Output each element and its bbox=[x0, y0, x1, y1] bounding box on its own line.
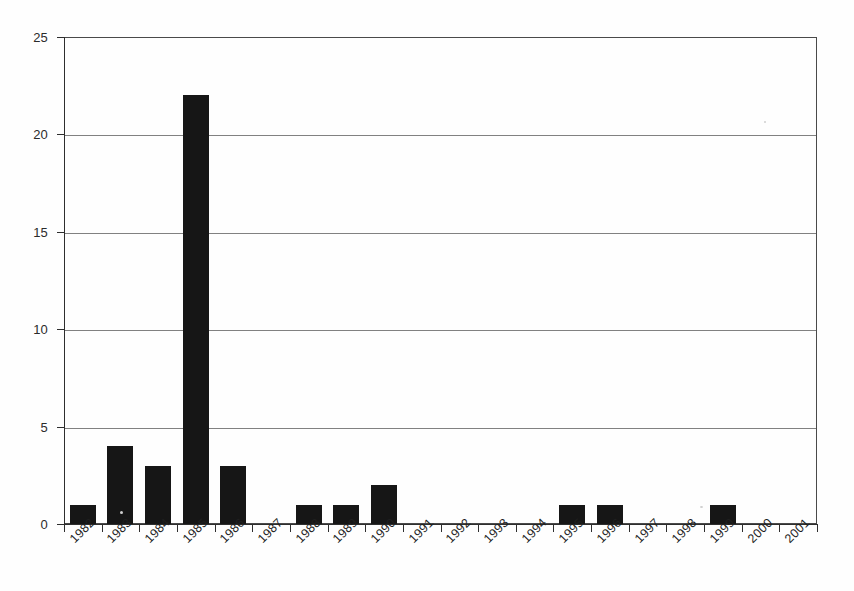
bar-slot bbox=[441, 37, 479, 524]
x-tick-mark bbox=[252, 524, 253, 532]
x-tick-mark bbox=[290, 524, 291, 532]
x-tick-mark bbox=[441, 524, 442, 532]
x-tick-mark bbox=[742, 524, 743, 532]
bar-slot bbox=[403, 37, 441, 524]
bar-slot bbox=[553, 37, 591, 524]
bar-slot bbox=[478, 37, 516, 524]
x-tick-mark bbox=[403, 524, 404, 532]
bar-slot bbox=[516, 37, 554, 524]
x-tick-mark bbox=[629, 524, 630, 532]
scan-artifact-speck bbox=[700, 506, 703, 508]
bar bbox=[220, 466, 246, 524]
bar-slot bbox=[779, 37, 817, 524]
x-tick-mark bbox=[591, 524, 592, 532]
bar-slot bbox=[215, 37, 253, 524]
x-tick-mark bbox=[365, 524, 366, 532]
bars-group bbox=[64, 37, 817, 524]
x-tick-mark bbox=[779, 524, 780, 532]
x-tick-mark bbox=[139, 524, 140, 532]
bar-slot bbox=[102, 37, 140, 524]
bar-slot bbox=[177, 37, 215, 524]
bar-slot bbox=[591, 37, 629, 524]
bar bbox=[183, 95, 209, 524]
bar-slot bbox=[365, 37, 403, 524]
x-tick-mark bbox=[666, 524, 667, 532]
x-tick-mark bbox=[64, 524, 65, 532]
x-tick-mark bbox=[704, 524, 705, 532]
y-tick-label: 25 bbox=[0, 30, 48, 45]
bar-slot bbox=[704, 37, 742, 524]
x-tick-mark bbox=[215, 524, 216, 532]
bar-slot bbox=[742, 37, 780, 524]
bar-slot bbox=[290, 37, 328, 524]
y-tick-label: 10 bbox=[0, 322, 48, 337]
bar-slot bbox=[139, 37, 177, 524]
x-tick-mark bbox=[177, 524, 178, 532]
scan-artifact-speck bbox=[764, 121, 766, 123]
x-tick-mark bbox=[478, 524, 479, 532]
y-tick-label: 0 bbox=[0, 517, 48, 532]
bar-chart: 0510152025 19821983198419851986198719881… bbox=[0, 0, 854, 591]
bar-slot bbox=[252, 37, 290, 524]
bar-slot bbox=[64, 37, 102, 524]
x-tick-mark bbox=[328, 524, 329, 532]
y-tick-label: 15 bbox=[0, 224, 48, 239]
y-tick-label: 5 bbox=[0, 419, 48, 434]
scan-artifact-speck bbox=[120, 511, 123, 514]
x-tick-mark bbox=[102, 524, 103, 532]
x-tick-mark bbox=[817, 524, 818, 532]
x-tick-mark bbox=[516, 524, 517, 532]
x-tick-mark bbox=[553, 524, 554, 532]
bar bbox=[145, 466, 171, 524]
y-tick-label: 20 bbox=[0, 127, 48, 142]
bar-slot bbox=[328, 37, 366, 524]
bar-slot bbox=[629, 37, 667, 524]
bar-slot bbox=[666, 37, 704, 524]
